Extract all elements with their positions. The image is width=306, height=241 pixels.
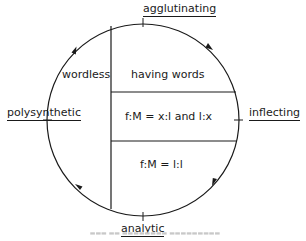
region-f-m-l-l: f:M = l:l <box>140 159 183 171</box>
arrow-upper-right-icon <box>206 43 214 50</box>
label-inflecting: inflecting <box>249 107 300 121</box>
arrow-upper-left-icon <box>72 47 77 55</box>
label-polysynthetic: polysynthetic <box>7 107 81 121</box>
label-agglutinating: agglutinating <box>143 3 216 17</box>
region-having-words: having words <box>131 69 205 81</box>
figure-caption: ▬▬▬ ▬▬ ▬▬▬▬▬▬▬▬ ▬▬▬▬▬▬▬▬▬ <box>60 230 250 236</box>
region-f-m-x-l-and-l-x: f:M = x:l and l:x <box>125 111 212 123</box>
region-wordless: wordless <box>62 69 110 81</box>
typology-diagram: agglutinating polysynthetic inflecting a… <box>0 0 306 241</box>
